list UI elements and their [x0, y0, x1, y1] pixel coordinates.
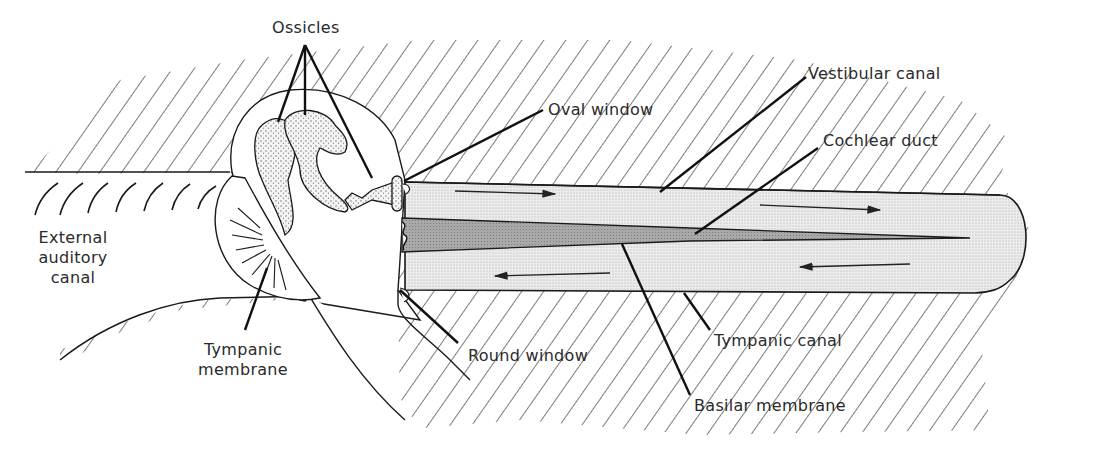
label-tympanic-line-2: membrane — [188, 360, 298, 380]
label-external-auditory-canal: External auditory canal — [28, 228, 118, 288]
label-ossicles: Ossicles — [272, 18, 340, 38]
label-vestibular-canal: Vestibular canal — [808, 64, 941, 84]
label-round-window: Round window — [468, 346, 588, 366]
cochlea — [400, 182, 1026, 302]
label-oval-window: Oval window — [548, 100, 653, 120]
label-tympanic-canal: Tympanic canal — [714, 331, 842, 351]
label-basilar-membrane: Basilar membrane — [694, 396, 846, 416]
label-external-line-1: External — [28, 228, 118, 248]
stapes-footplate — [392, 176, 402, 211]
label-external-line-3: canal — [28, 268, 118, 288]
label-tympanic-membrane: Tympanic membrane — [188, 340, 298, 380]
label-external-line-2: auditory — [28, 248, 118, 268]
label-cochlear-duct: Cochlear duct — [823, 131, 938, 151]
label-tympanic-line-1: Tympanic — [188, 340, 298, 360]
